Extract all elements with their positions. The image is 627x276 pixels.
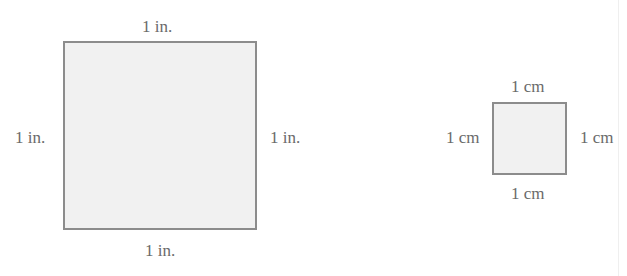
label-inch-left: 1 in. bbox=[15, 128, 45, 148]
square-one-inch bbox=[63, 41, 257, 230]
label-inch-right: 1 in. bbox=[270, 128, 300, 148]
label-inch-top: 1 in. bbox=[142, 17, 172, 37]
label-cm-bottom: 1 cm bbox=[511, 184, 545, 204]
page-edge-line bbox=[618, 0, 619, 276]
label-inch-bottom: 1 in. bbox=[145, 241, 175, 261]
label-cm-left: 1 cm bbox=[446, 128, 480, 148]
square-one-centimeter bbox=[492, 102, 567, 175]
label-cm-right: 1 cm bbox=[580, 128, 614, 148]
label-cm-top: 1 cm bbox=[511, 77, 545, 97]
